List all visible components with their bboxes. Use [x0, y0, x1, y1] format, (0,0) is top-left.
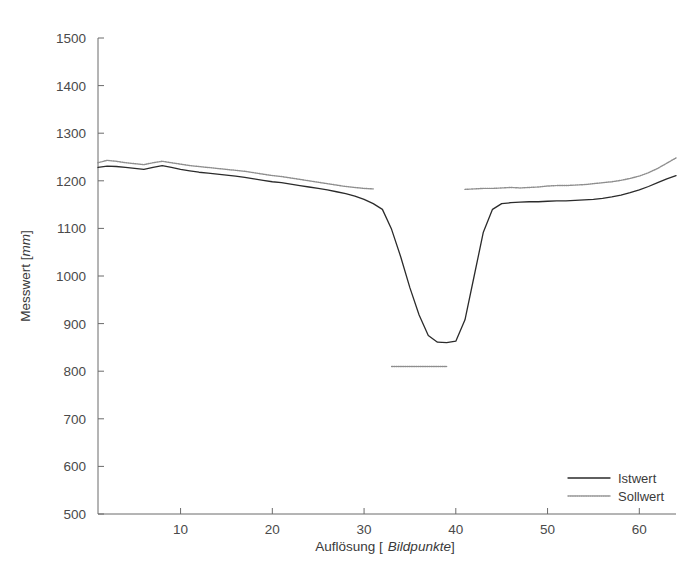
- y-tick-label: 900: [63, 317, 86, 332]
- y-tick-label: 1200: [56, 174, 86, 189]
- x-axis-title-plain: Auflösung [: [315, 539, 383, 554]
- y-tick-label: 500: [63, 507, 86, 522]
- x-tick-label: 30: [357, 522, 372, 537]
- y-tick-label: 1000: [56, 269, 86, 284]
- y-tick-label: 1500: [56, 31, 86, 46]
- y-axis-title-italic: mm: [18, 234, 33, 257]
- x-axis-title-italic: Bildpunkte: [388, 539, 451, 554]
- y-axis-title-tail: ]: [18, 230, 33, 234]
- y-tick-label: 1100: [57, 221, 86, 236]
- legend-label-istwert: Istwert: [618, 471, 657, 486]
- y-tick-label: 1300: [56, 126, 86, 141]
- y-axis-title-plain: Messwert [: [18, 256, 33, 322]
- x-tick-label: 40: [448, 522, 463, 537]
- svg-text:Messwert [mm]: Messwert [mm]: [18, 230, 33, 322]
- x-axis-title-tail: ]: [451, 539, 455, 554]
- x-tick-label: 10: [173, 522, 188, 537]
- y-axis-title: Messwert [mm]: [18, 230, 33, 322]
- chart-background: [0, 0, 697, 574]
- y-tick-label: 600: [63, 459, 86, 474]
- measurement-chart: 500600700800900100011001200130014001500 …: [0, 0, 697, 574]
- y-tick-label: 1400: [56, 79, 86, 94]
- x-tick-label: 20: [265, 522, 280, 537]
- legend-label-sollwert: Sollwert: [618, 489, 665, 504]
- x-tick-label: 50: [540, 522, 555, 537]
- y-tick-label: 800: [63, 364, 86, 379]
- x-tick-label: 60: [632, 522, 647, 537]
- y-tick-label: 700: [63, 412, 86, 427]
